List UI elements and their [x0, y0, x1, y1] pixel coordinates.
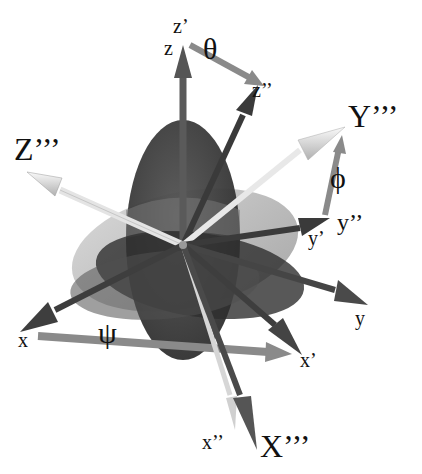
label-X-triple-prime: X’’’ — [260, 430, 310, 462]
label-theta: θ — [203, 34, 217, 64]
label-x-prime: x’ — [300, 350, 317, 370]
label-Y-triple-prime: Y’’’ — [348, 100, 398, 132]
label-Z-triple-prime: Z’’’ — [14, 133, 61, 165]
label-z-double-prime: z’’ — [252, 80, 273, 100]
label-x: x — [18, 330, 28, 350]
label-phi: ϕ — [330, 163, 346, 193]
label-y-double-prime: y’’ — [337, 210, 363, 234]
origin-point — [179, 241, 187, 249]
label-z-prime: z’ — [173, 16, 189, 36]
euler-angles-diagram — [0, 0, 422, 474]
label-y: y — [355, 308, 365, 328]
label-y-prime: y’ — [308, 228, 325, 248]
label-psi: ψ — [98, 318, 117, 348]
label-x-double-prime: x’’ — [202, 432, 224, 452]
label-z: z — [164, 38, 173, 58]
